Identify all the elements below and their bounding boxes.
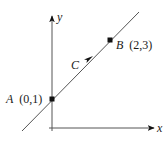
point-b-marker [108,38,113,43]
point-a-coords: (0,1) [19,92,42,106]
y-axis-label: y [56,10,63,24]
curve-label: C [71,58,80,72]
x-axis-label: x [156,121,163,135]
diagram-canvas: y x C A (0,1) B (2,3) [0,0,168,142]
point-b-coords: (2,3) [129,38,152,52]
point-a-label: A (0,1) [5,92,42,106]
point-b-name: B [116,38,124,52]
point-a-marker [50,97,55,102]
curve-c-line [22,12,139,131]
diagram-svg: y x C A (0,1) B (2,3) [0,0,168,142]
point-a-name: A [5,92,14,106]
point-b-label: B (2,3) [116,38,152,52]
